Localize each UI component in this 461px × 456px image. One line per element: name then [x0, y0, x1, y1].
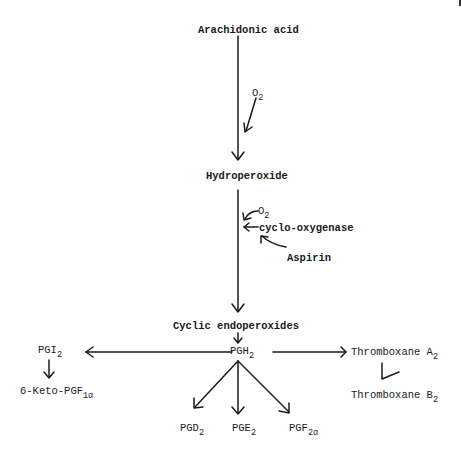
arrow-pgh2-to-pgd2 [195, 361, 238, 407]
arrow-aspirin-inhibits [262, 236, 286, 247]
node-cyclic-endoperoxides: Cyclic endoperoxides [173, 320, 299, 332]
node-pgi2: PGI2 [38, 344, 62, 356]
node-aspirin: Aspirin [287, 252, 331, 264]
node-6-keto-pgf1a: 6-Keto-PGF1α [20, 385, 93, 397]
arrow-pgh2-to-pgf2a [238, 361, 289, 412]
arrow-thromboxane-a2-to-b2 [382, 363, 399, 379]
node-arachidonic-acid: Arachidonic acid [198, 24, 299, 36]
node-thromboxane-a2: Thromboxane A2 [351, 346, 438, 358]
node-pge2: PGE2 [232, 422, 256, 434]
node-o2-first: O2 [252, 87, 263, 99]
node-thromboxane-b2: Thromboxane B2 [351, 389, 438, 401]
arrow-o2-first [246, 98, 256, 131]
node-pgd2: PGD2 [180, 422, 204, 434]
node-pgh2: PGH2 [230, 345, 254, 357]
node-pgf2a: PGF2α [289, 422, 318, 434]
node-hydroperoxide: Hydroperoxide [206, 170, 288, 182]
node-o2-second: O2 [258, 205, 269, 217]
node-cyclo-oxygenase: cyclo-oxygenase [259, 222, 354, 234]
